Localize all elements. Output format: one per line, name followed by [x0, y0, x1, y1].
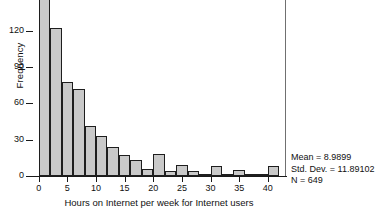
x-axis-tick-label: 40 [263, 183, 273, 193]
y-axis-tick: 120 [26, 31, 33, 32]
x-axis-tick [182, 177, 183, 182]
histogram-bar [211, 166, 222, 176]
histogram-bar [39, 0, 50, 176]
histogram-bar [50, 28, 61, 176]
x-axis-tick-label: 30 [206, 183, 216, 193]
x-axis-tick-label: 35 [234, 183, 244, 193]
x-axis-tick [39, 177, 40, 182]
histogram-bar [107, 147, 118, 176]
y-axis-tick-label: 60 [14, 97, 24, 107]
bars-container [33, 0, 285, 176]
x-axis-tick [211, 177, 212, 182]
plot-right-frame [285, 0, 286, 176]
histogram-bar [85, 126, 96, 176]
histogram-bar [62, 82, 73, 176]
histogram-bar [130, 160, 141, 176]
histogram-bar [176, 165, 187, 176]
x-axis-tick [239, 177, 240, 182]
histogram-bar [73, 89, 84, 176]
x-axis-tick [268, 177, 269, 182]
y-axis-tick-label: 30 [14, 134, 24, 144]
y-axis-tick: 60 [26, 103, 33, 104]
histogram-bar [142, 169, 153, 176]
histogram-bar [119, 155, 130, 176]
plot-area: 03060901201500510152025303540 [33, 0, 285, 176]
x-axis-tick [125, 177, 126, 182]
stat-std-dev: Std. Dev. = 11.89102 [291, 164, 374, 176]
x-axis-tick-label: 5 [65, 183, 70, 193]
statistics-box: Mean = 8.9899 Std. Dev. = 11.89102 N = 6… [291, 152, 374, 187]
y-axis-tick: 90 [26, 67, 33, 68]
x-axis-tick-label: 25 [177, 183, 187, 193]
x-axis-tick-label: 15 [120, 183, 130, 193]
histogram-bar [268, 166, 279, 176]
y-axis-tick-label: 90 [14, 61, 24, 71]
stat-mean: Mean = 8.9899 [291, 152, 374, 164]
histogram-bar [96, 136, 107, 176]
x-axis-title: Hours on Internet per week for Internet … [33, 197, 285, 208]
histogram-bar [153, 154, 164, 176]
y-axis-tick-label: 0 [19, 170, 24, 180]
x-axis-tick-label: 20 [148, 183, 158, 193]
y-axis-tick: 30 [26, 140, 33, 141]
x-axis-tick-label: 0 [36, 183, 41, 193]
stat-n: N = 649 [291, 175, 374, 187]
x-axis-tick [96, 177, 97, 182]
x-axis-tick [67, 177, 68, 182]
y-axis-tick: 0 [26, 176, 33, 177]
y-axis-tick-label: 120 [9, 25, 24, 35]
x-axis-tick-label: 10 [91, 183, 101, 193]
histogram-figure: Frequency 03060901201500510152025303540 … [0, 0, 384, 214]
x-axis-tick [153, 177, 154, 182]
